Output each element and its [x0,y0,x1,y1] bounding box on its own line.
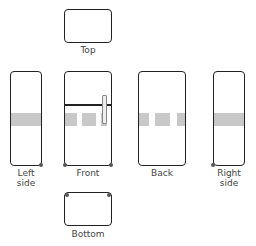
right-foot [211,163,215,167]
left-foot [39,163,43,167]
right-label-line2: side [207,178,251,188]
left-side-view [10,71,42,166]
back-band-1 [139,113,149,126]
back-label: Back [138,168,186,178]
left-label: Left side [4,168,48,188]
front-band-1 [65,113,77,126]
bottom-foot-right [107,193,111,197]
front-handle [102,95,107,124]
back-view [138,71,186,166]
top-view [64,9,112,43]
top-label: Top [64,45,112,55]
front-label: Front [64,168,112,178]
left-label-line2: side [4,178,48,188]
right-label-line1: Right [207,168,251,178]
front-view [64,71,112,166]
bottom-view [64,192,112,226]
front-foot-right [109,163,113,167]
front-foot-left [63,163,67,167]
right-band [214,113,244,126]
front-band-2 [82,113,96,126]
left-label-line1: Left [4,168,48,178]
back-band-3 [177,113,185,126]
back-band-2 [155,113,170,126]
left-band [11,113,41,126]
right-label: Right side [207,168,251,188]
bottom-foot-left [65,193,69,197]
right-side-view [213,71,245,166]
bottom-label: Bottom [64,229,112,239]
